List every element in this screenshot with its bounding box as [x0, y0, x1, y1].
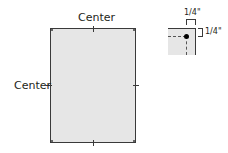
corner-mark-top-left [51, 29, 53, 31]
right-measure-label: 1/4" [205, 27, 222, 36]
corner-hole-dot-icon [184, 34, 189, 39]
inset-corner-detail [168, 28, 195, 55]
inset-right-edge [195, 28, 196, 55]
top-measure-bracket [186, 19, 196, 25]
bottom-center-tick [93, 140, 94, 146]
top-center-label: Center [78, 12, 115, 24]
corner-mark-bottom-right [133, 140, 135, 142]
corner-mark-top-right [133, 29, 135, 31]
inset-top-edge [168, 28, 196, 29]
right-center-tick [133, 85, 139, 86]
page-rectangle [50, 28, 136, 143]
corner-mark-bottom-left [51, 140, 53, 142]
right-measure-bracket [198, 28, 203, 37]
top-center-tick [93, 26, 94, 32]
top-measure-label: 1/4" [184, 8, 201, 17]
left-center-label: Center [14, 80, 51, 92]
